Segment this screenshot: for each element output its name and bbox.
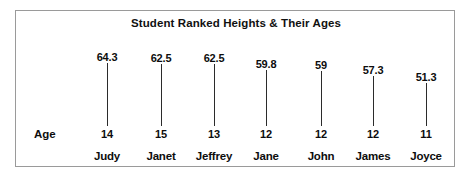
height-value-label: 51.3 (391, 71, 461, 83)
chart-container: Student Ranked Heights & Their Ages Age … (15, 10, 455, 167)
stem-line (266, 70, 267, 126)
stem-line (373, 76, 374, 126)
stem-line (426, 83, 427, 126)
student-name-label: Joyce (391, 150, 461, 162)
student-column: 51.311Joyce (391, 11, 461, 168)
stem-line (214, 64, 215, 126)
stem-line (107, 63, 108, 126)
plot-area: 64.314Judy62.515Janet62.513Jeffrey59.812… (16, 11, 456, 168)
age-value-label: 11 (391, 128, 461, 140)
stem-line (161, 64, 162, 126)
stem-line (321, 71, 322, 126)
